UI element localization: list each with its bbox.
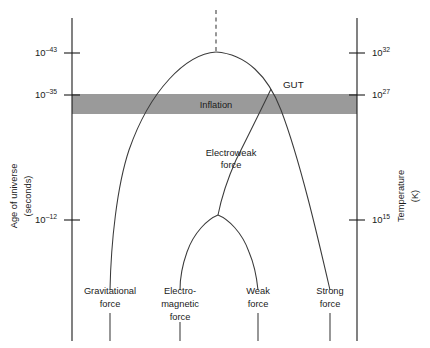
diagram-canvas: 10–43 10–35 10–12 1032 1027 1015 Age of … bbox=[0, 0, 430, 348]
right-tick-label-2: 1027 bbox=[372, 88, 390, 100]
electromagnetic-force-label-line-3: force bbox=[170, 312, 191, 322]
gravitational-force-curve bbox=[110, 52, 216, 290]
gravitational-force-label-line-2: force bbox=[100, 299, 121, 309]
left-tick-label-1: 10–43 bbox=[35, 46, 57, 58]
electromagnetic-force-curve bbox=[180, 215, 218, 290]
right-tick-label-3: 1015 bbox=[372, 213, 390, 225]
gut-label: GUT bbox=[283, 79, 304, 90]
right-axis-title-line-1: Temperature bbox=[396, 170, 406, 222]
electroweak-force-label-line-1: Electroweak bbox=[206, 148, 257, 158]
left-tick-label-3: 10–12 bbox=[35, 213, 57, 225]
electroweak-force-label-line-2: force bbox=[221, 160, 242, 170]
electromagnetic-force-label-line-2: magnetic bbox=[161, 299, 199, 309]
strong-force-label-line-1: Strong bbox=[316, 286, 343, 296]
weak-force-label-line-1: Weak bbox=[246, 286, 270, 296]
strong-force-label-line-2: force bbox=[320, 299, 341, 309]
electromagnetic-force-label-line-1: Electro- bbox=[164, 286, 196, 296]
force-unification-diagram: 10–43 10–35 10–12 1032 1027 1015 Age of … bbox=[0, 0, 430, 348]
right-axis-title-line-2: (K) bbox=[410, 190, 420, 202]
inflation-label: Inflation bbox=[200, 100, 233, 110]
left-axis-title-line-2: (seconds) bbox=[23, 176, 33, 217]
left-axis-title-line-1: Age of universe bbox=[9, 164, 19, 229]
weak-force-label-line-2: force bbox=[248, 299, 269, 309]
weak-force-curve bbox=[218, 215, 258, 290]
strong-force-curve bbox=[216, 52, 330, 290]
right-tick-label-1: 1032 bbox=[372, 46, 390, 58]
left-tick-label-2: 10–35 bbox=[35, 88, 57, 100]
gravitational-force-label-line-1: Gravitational bbox=[84, 286, 136, 296]
